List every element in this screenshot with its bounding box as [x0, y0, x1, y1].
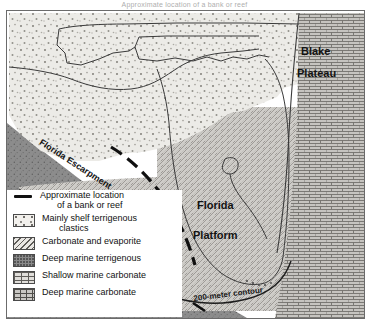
- clastics-swatch-icon: [13, 214, 35, 227]
- figure-caption: Approximate location of a bank or reef: [0, 0, 369, 9]
- figure-caption-strip: Approximate location of a bank or reef: [0, 0, 369, 9]
- plateau-label: Plateau: [297, 67, 336, 79]
- legend-item-shallow-marine-carbonate: Shallow marine carbonate: [13, 270, 182, 284]
- legend-item-clastics-label: Mainly shelf terrigenous clastics: [42, 213, 137, 233]
- deep-marine-terrigenous-swatch-icon: [13, 254, 35, 267]
- legend-item-deep-marine-terrigenous-label: Deep marine terrigenous: [42, 253, 141, 263]
- legend-item-carbonate-evaporite-label: Carbonate and evaporite: [42, 236, 141, 246]
- blake-label: Blake: [301, 45, 330, 57]
- legend-item-deep-marine-carbonate-label: Deep marine carbonate: [42, 287, 136, 297]
- carbonate-evaporite-swatch-icon: [13, 237, 35, 250]
- legend-item-carbonate-evaporite: Carbonate and evaporite: [13, 236, 182, 250]
- platform-label: Platform: [193, 229, 238, 241]
- legend-item-deep-marine-terrigenous: Deep marine terrigenous: [13, 253, 182, 267]
- florida-label: Florida: [197, 199, 234, 211]
- legend-line-2: of a bank or reef: [57, 200, 124, 210]
- legend-item-bank-reef-label: Approximate location of a bank or reef: [40, 190, 124, 210]
- map-legend: Approximate location of a bank or reef M…: [7, 190, 182, 317]
- map-figure: Approximate location of a bank or reef: [0, 0, 369, 327]
- shallow-marine-carbonate-swatch-icon: [13, 271, 35, 284]
- legend-item-deep-marine-carbonate: Deep marine carbonate: [13, 287, 182, 301]
- legend-item-bank-reef: Approximate location of a bank or reef: [13, 190, 182, 210]
- legend-item-clastics: Mainly shelf terrigenous clastics: [13, 213, 182, 233]
- legend-line-1: Approximate location: [40, 190, 124, 200]
- deep-marine-carbonate-swatch-icon: [13, 288, 35, 301]
- legend-item-shallow-marine-carbonate-label: Shallow marine carbonate: [42, 270, 146, 280]
- legend-line-1: Mainly shelf terrigenous: [42, 213, 137, 223]
- legend-line-2: clastics: [59, 223, 137, 233]
- bank-reef-line-icon: [13, 191, 33, 202]
